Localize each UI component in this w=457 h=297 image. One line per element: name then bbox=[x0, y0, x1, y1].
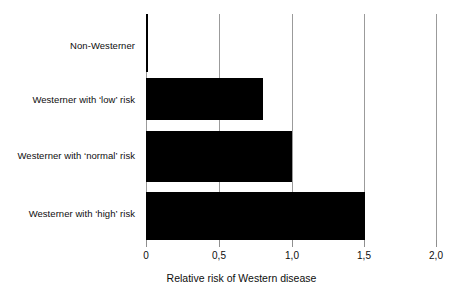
x-tick-1-0 bbox=[292, 240, 293, 247]
category-axis: Non-Westerner Westerner with ‘low’ risk … bbox=[0, 14, 140, 240]
bar-non-westerner bbox=[146, 14, 148, 72]
bar-westerner-high-risk bbox=[146, 192, 365, 240]
x-tick-label-0-5: 0,5 bbox=[212, 250, 226, 262]
bar-chart-figure: Non-Westerner Westerner with ‘low’ risk … bbox=[0, 0, 457, 297]
gridline-2-0 bbox=[436, 14, 437, 240]
x-axis-title-wrapper: Relative risk of Western disease bbox=[0, 272, 457, 285]
x-tick-2-0 bbox=[436, 240, 437, 247]
x-tick-label-1-5: 1,5 bbox=[357, 250, 371, 262]
x-tick-1-5 bbox=[364, 240, 365, 247]
x-tick-0 bbox=[146, 240, 147, 247]
x-tick-label-2-0: 2,0 bbox=[429, 250, 443, 262]
category-label-westerner-normal-risk: Westerner with ‘normal’ risk bbox=[0, 150, 135, 161]
bar-westerner-normal-risk bbox=[146, 131, 292, 182]
x-axis-title: Relative risk of Western disease bbox=[167, 272, 317, 285]
x-tick-0-5 bbox=[219, 240, 220, 247]
category-label-westerner-low-risk: Westerner with ‘low’ risk bbox=[0, 94, 135, 105]
x-tick-label-row: 0 0,5 1,0 1,5 2,0 bbox=[100, 250, 457, 264]
category-label-non-westerner: Non-Westerner bbox=[0, 40, 135, 51]
category-label-westerner-high-risk: Westerner with ‘high’ risk bbox=[0, 208, 135, 219]
x-tick-label-0: 0 bbox=[143, 250, 149, 262]
plot-area bbox=[146, 14, 437, 240]
x-axis bbox=[146, 240, 437, 248]
bar-westerner-low-risk bbox=[146, 78, 263, 120]
x-tick-label-1-0: 1,0 bbox=[285, 250, 299, 262]
